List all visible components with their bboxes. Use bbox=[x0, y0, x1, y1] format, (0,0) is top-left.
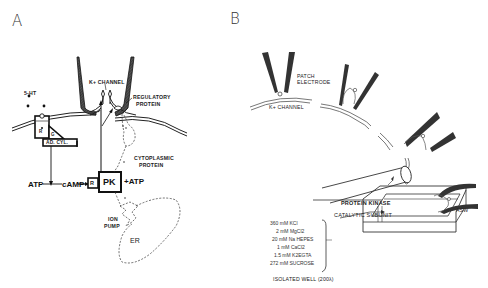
label-regulatory-subunit: R bbox=[90, 180, 94, 187]
label-protein-kinase-b: PROTEIN KINASE bbox=[341, 200, 391, 207]
solution-item: 2 mM MgCl2 bbox=[270, 227, 320, 235]
label-protein-kinase: PK bbox=[103, 177, 116, 187]
diagram-canvas bbox=[0, 0, 488, 288]
label-cytoplasmic: CYTOPLASMIC bbox=[134, 155, 174, 161]
panel-b-letter: B bbox=[230, 10, 240, 28]
label-regulatory-protein: PROTEIN bbox=[136, 101, 160, 107]
label-isolated-well: ISOLATED WELL (200λ) bbox=[273, 276, 334, 282]
solution-list: 360 mM KCl 2 mM MgCl2 20 mM Na HEPES 1 m… bbox=[270, 219, 320, 267]
solution-item: 360 mM KCl bbox=[270, 219, 320, 227]
label-5ht: 5-HT bbox=[24, 90, 36, 96]
label-adenylyl-cyclase: AD. CYL. bbox=[46, 140, 68, 146]
label-patch-electrode: ELECTRODE bbox=[297, 79, 331, 85]
solution-item: 1 mM CaCl2 bbox=[270, 243, 320, 251]
label-ion-pump: PUMP bbox=[104, 223, 120, 229]
label-regulatory: REGULATORY bbox=[133, 94, 171, 100]
label-k-channel-b: K+ CHANNEL bbox=[269, 104, 304, 110]
label-g-protein: G bbox=[51, 132, 55, 137]
solution-item: 20 mM Na HEPES bbox=[270, 235, 320, 243]
label-ion: ION bbox=[108, 216, 118, 222]
label-atp-right: +ATP bbox=[124, 177, 144, 186]
label-receptor: R bbox=[39, 129, 42, 134]
label-k-channel-a: K+ CHANNEL bbox=[89, 79, 125, 85]
label-asw: ASW bbox=[456, 207, 468, 213]
solution-item: 272 mM SUCROSE bbox=[270, 259, 320, 267]
label-er: ER bbox=[130, 237, 140, 245]
solution-item: 1.5 mM K2EGTA bbox=[270, 251, 320, 259]
label-camp: cAMP bbox=[62, 180, 84, 189]
label-catalytic-subunit: CATALYTIC SUBUNIT bbox=[334, 212, 392, 219]
label-atp-left: ATP bbox=[28, 180, 43, 189]
panel-a-letter: A bbox=[12, 12, 22, 30]
label-cytoplasmic-protein: PROTEIN bbox=[139, 162, 163, 168]
